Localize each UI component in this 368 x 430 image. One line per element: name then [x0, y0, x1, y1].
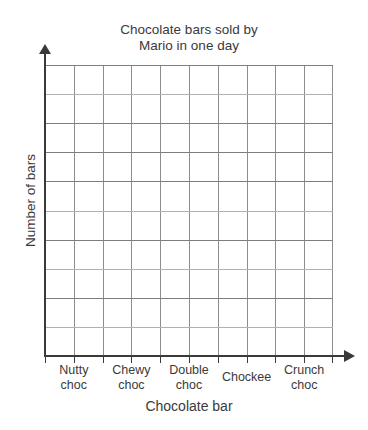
gridline-horizontal: [45, 298, 333, 299]
gridline-horizontal: [45, 123, 333, 124]
x-category-label: Chockee: [218, 370, 276, 385]
x-category-label-line: Double: [160, 363, 218, 378]
x-category-label: Nutty choc: [45, 363, 103, 392]
gridline-horizontal: [45, 269, 333, 270]
gridline-horizontal: [45, 240, 333, 241]
x-category-label-line: choc: [45, 378, 103, 393]
x-axis-line: [44, 355, 346, 357]
x-category-label: Chewy choc: [103, 363, 161, 392]
gridline-horizontal: [45, 152, 333, 153]
y-axis-label: Number of bars: [23, 126, 38, 276]
y-axis-line: [44, 52, 46, 357]
x-category-label: Crunch choc: [275, 363, 333, 392]
x-axis-tick: [247, 357, 248, 363]
x-category-label-line: choc: [275, 378, 333, 393]
x-category-label-line: choc: [103, 378, 161, 393]
x-axis-label: Chocolate bar: [45, 398, 333, 414]
gridline-horizontal: [45, 94, 333, 95]
gridline-horizontal: [45, 181, 333, 182]
gridline-horizontal: [45, 211, 333, 212]
x-axis-tick: [218, 357, 219, 363]
gridline-horizontal: [45, 327, 333, 328]
x-category-label-line: Nutty: [45, 363, 103, 378]
plot-area: [45, 65, 333, 356]
x-axis-arrow-icon: [344, 350, 355, 362]
gridline-horizontal: [45, 65, 333, 66]
x-category-label-line: Crunch: [275, 363, 333, 378]
y-axis-arrow-icon: [39, 44, 51, 54]
x-category-label-line: choc: [160, 378, 218, 393]
x-category-label-line: Chewy: [103, 363, 161, 378]
x-category-label-line: Chockee: [218, 370, 276, 385]
x-category-label: Double choc: [160, 363, 218, 392]
chart-title: Chocolate bars sold by Mario in one day: [45, 22, 333, 54]
